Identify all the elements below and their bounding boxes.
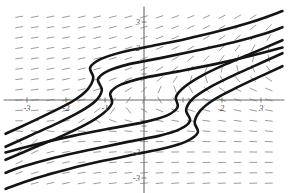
slope-segment (47, 151, 54, 153)
slope-segment (205, 76, 207, 83)
slope-segment (158, 86, 161, 92)
y-tick-label: -2 (133, 147, 141, 157)
slope-segment (172, 26, 179, 29)
slope-segment (47, 37, 54, 38)
slope-segment (188, 15, 194, 18)
slope-segment (47, 27, 54, 28)
x-tick-label: -2 (62, 103, 70, 113)
slope-segment (31, 47, 38, 48)
slope-segment (78, 68, 85, 70)
slope-segment (79, 119, 85, 123)
slope-segment (63, 37, 70, 38)
slope-segment (187, 109, 194, 111)
slope-segment (125, 16, 132, 18)
slope-segment (109, 37, 116, 39)
slope-segment (16, 79, 23, 80)
slope-segment (47, 89, 54, 90)
slope-segment (16, 89, 23, 90)
slope-segment (31, 110, 38, 111)
slope-segment (78, 58, 85, 60)
slope-segment (203, 36, 209, 40)
slope-segment (220, 55, 224, 61)
slope-segment (94, 172, 101, 173)
slope-segment (63, 172, 70, 173)
slope-segment (63, 162, 70, 163)
slope-segment (219, 25, 225, 29)
slope-segment (156, 131, 163, 132)
slope-segment (78, 89, 85, 91)
slope-segment (109, 172, 116, 173)
slope-segment (203, 26, 209, 29)
slope-segment (234, 110, 241, 111)
slope-segment (234, 131, 241, 132)
slope-segment (125, 88, 131, 92)
slope-segment (267, 35, 271, 41)
slope-segment (47, 47, 54, 48)
slope-segment (47, 131, 54, 132)
slope-segment (31, 172, 38, 174)
slope-segment (63, 58, 70, 59)
slope-segment (63, 79, 70, 80)
slope-segment (203, 15, 209, 18)
x-tick-label: -3 (23, 103, 30, 113)
slope-segment (94, 68, 101, 70)
slope-segment (203, 131, 210, 132)
slope-segment (109, 26, 116, 28)
slope-segment (31, 68, 38, 69)
slope-segment (63, 89, 70, 90)
slope-segment (31, 37, 38, 38)
slope-segment (47, 16, 54, 17)
slope-segment (47, 162, 54, 164)
slope-segment (235, 45, 239, 50)
slope-segment (110, 120, 117, 122)
slope-segment (250, 131, 257, 132)
slope-segment (187, 131, 194, 132)
x-tick-label: 2 (220, 103, 225, 113)
slope-segment (234, 120, 241, 121)
slope-segment (156, 47, 162, 50)
slope-segment (78, 16, 85, 18)
slope-segment (172, 46, 178, 49)
plot-canvas: -3-2-123-3-223 (0, 0, 299, 193)
y-tick-label: -3 (133, 173, 140, 183)
slope-segment (156, 26, 163, 28)
x-tick-label: -1 (101, 103, 108, 113)
slope-segment (16, 27, 23, 28)
slope-segment (31, 89, 38, 90)
slope-segment (16, 131, 23, 132)
slope-segment (63, 47, 70, 48)
slope-segment (78, 172, 85, 173)
slope-segment (78, 47, 85, 49)
slope-segment (78, 78, 85, 80)
slope-segment (265, 110, 272, 111)
slope-segment (63, 27, 70, 28)
slope-segment (157, 77, 162, 82)
slope-segment (110, 78, 117, 80)
slope-segment (125, 57, 132, 59)
slope-segment (63, 151, 70, 152)
slope-segment (31, 58, 38, 59)
slope-segment (111, 108, 115, 114)
slope-segment (125, 68, 132, 71)
slope-segment (156, 109, 162, 112)
slope-segment (250, 88, 256, 91)
slope-segment (78, 37, 85, 39)
slope-field-figure: -3-2-123-3-223 (0, 0, 299, 193)
slope-segment (188, 46, 194, 50)
slope-segment (237, 65, 239, 72)
slope-segment (109, 47, 116, 49)
slope-segment (156, 36, 163, 39)
slope-segment (94, 152, 101, 153)
slope-segment (250, 15, 256, 19)
slope-segment (125, 183, 132, 184)
slope-segment (250, 120, 257, 121)
slope-segment (16, 68, 23, 69)
slope-segment (109, 16, 116, 18)
slope-segment (94, 26, 101, 28)
slope-segment (174, 86, 176, 93)
slope-segment (156, 16, 163, 18)
slope-segment (63, 16, 70, 17)
slope-segment (157, 67, 163, 71)
slope-segment (31, 16, 38, 17)
slope-segment (203, 110, 210, 112)
